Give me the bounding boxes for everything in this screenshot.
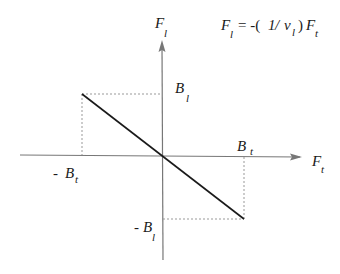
equation-middle: = -(	[238, 17, 260, 34]
tick-neg-y-main: B	[143, 219, 152, 235]
equation-rhs-sub: t	[315, 27, 319, 39]
y-axis	[162, 44, 163, 260]
x-axis	[20, 155, 300, 157]
tick-neg-y-prefix: -	[134, 219, 139, 235]
equation-close: )	[298, 17, 303, 34]
y-axis-label-sub: l	[164, 27, 167, 39]
tick-pos-x-sub: t	[250, 145, 254, 157]
tick-neg-x-prefix: -	[53, 165, 58, 181]
equation: F l = -( 1 / ν l ) F t	[220, 17, 319, 40]
diagram-canvas: F l F t F l = -( 1 / ν l ) F t B l B t -…	[0, 0, 340, 274]
equation-lhs-sub: l	[230, 28, 233, 40]
tick-neg-x-main: B	[65, 165, 74, 181]
equation-nu-sub: l	[292, 26, 295, 38]
x-axis-label-sub: t	[321, 163, 325, 175]
tick-neg-y-sub: l	[152, 231, 155, 243]
tick-pos-x-main: B	[237, 138, 246, 154]
equation-nu: ν	[284, 17, 291, 33]
equation-slash: /	[274, 17, 281, 33]
tick-pos-y-sub: l	[186, 92, 189, 104]
tick-neg-x-sub: t	[75, 173, 79, 185]
tick-pos-y-main: B	[175, 80, 184, 96]
